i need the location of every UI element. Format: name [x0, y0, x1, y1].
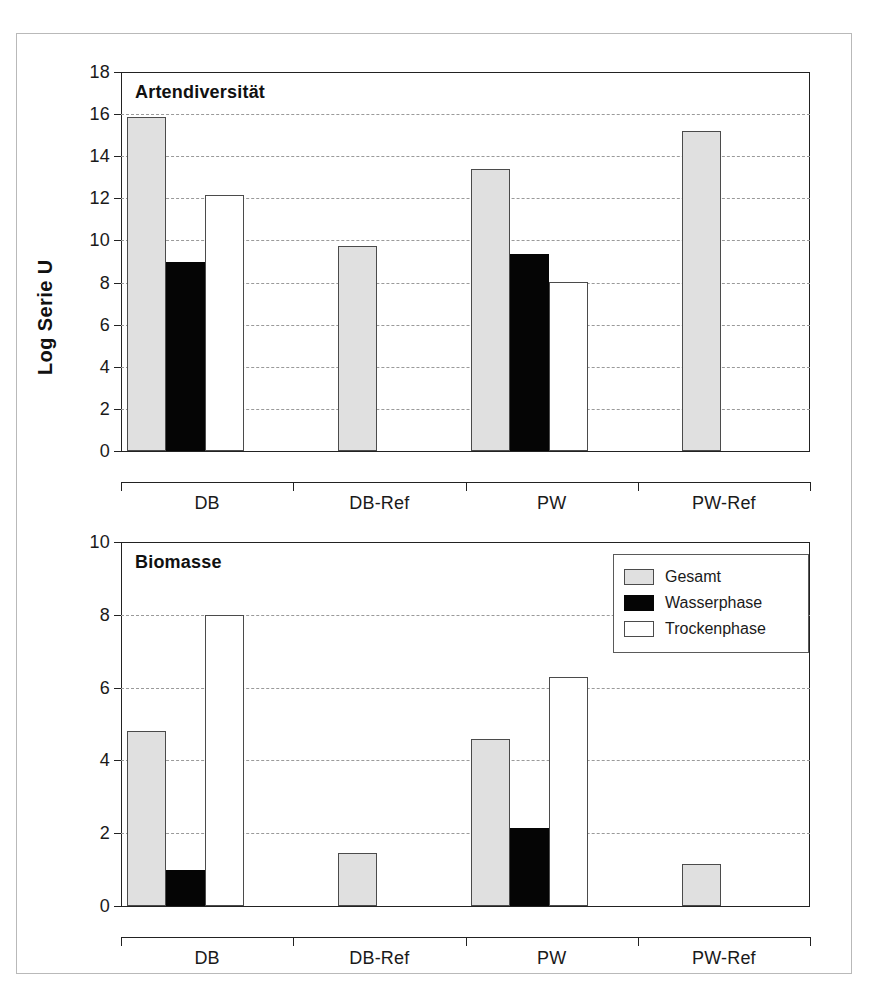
legend-item-trockenphase: Trockenphase: [624, 616, 798, 642]
y-tick-label: 14: [90, 146, 110, 167]
bar-pw-wasser: [510, 828, 549, 906]
y-tick: [114, 451, 121, 452]
x-tick: [293, 482, 294, 491]
x-axis-label-db-ref: DB-Ref: [349, 948, 409, 969]
legend-swatch-gesamt-icon: [624, 569, 654, 585]
y-tick: [114, 688, 121, 689]
y-tick-label: 0: [100, 441, 110, 462]
y-tick: [114, 833, 121, 834]
x-axis-label-db: DB: [194, 948, 219, 969]
legend-label-trockenphase: Trockenphase: [665, 620, 766, 638]
y-tick-label: 6: [100, 677, 110, 698]
y-tick: [114, 198, 121, 199]
x-tick: [121, 937, 122, 946]
bar-pw-trocken: [549, 282, 588, 451]
x-tick: [293, 937, 294, 946]
x-axis-label-pw: PW: [537, 948, 566, 969]
y-tick-label: 6: [100, 314, 110, 335]
y-tick: [114, 542, 121, 543]
y-tick-label: 4: [100, 750, 110, 771]
y-tick-label: 2: [100, 398, 110, 419]
y-tick: [114, 760, 121, 761]
y-tick-label: 18: [90, 62, 110, 83]
x-axis-line-bottom: [121, 906, 810, 907]
plot-right-border-top: [809, 72, 810, 452]
x-tick: [466, 937, 467, 946]
y-tick-label: 4: [100, 356, 110, 377]
bar-pw-gesamt: [471, 739, 510, 906]
y-tick-label: 2: [100, 823, 110, 844]
legend-item-gesamt: Gesamt: [624, 564, 798, 590]
legend-swatch-trockenphase-icon: [624, 621, 654, 637]
legend-swatch-wasserphase-icon: [624, 595, 654, 611]
y-tick-label: 10: [90, 532, 110, 553]
y-tick-label: 10: [90, 230, 110, 251]
y-tick: [114, 114, 121, 115]
bar-db-gesamt: [127, 731, 166, 906]
bar-db-ref-gesamt: [338, 853, 377, 906]
chart-legend: Gesamt Wasserphase Trockenphase: [613, 554, 809, 653]
y-tick: [114, 367, 121, 368]
y-tick: [114, 906, 121, 907]
y-tick: [114, 615, 121, 616]
plot-area-top: 024681012141618: [121, 72, 810, 452]
y-tick: [114, 325, 121, 326]
y-tick-label: 0: [100, 896, 110, 917]
legend-label-wasserphase: Wasserphase: [665, 594, 762, 612]
bar-pw-gesamt: [471, 169, 510, 451]
gridline: [121, 114, 810, 115]
bar-db-gesamt: [127, 117, 166, 451]
x-axis-label-pw-ref: PW-Ref: [692, 948, 756, 969]
legend-label-gesamt: Gesamt: [665, 568, 721, 586]
bar-pw-ref-gesamt: [682, 131, 721, 451]
figure-canvas: Log Serie U Artendiversität 024681012141…: [0, 0, 872, 1002]
y-tick-label: 8: [100, 604, 110, 625]
y-tick-label: 8: [100, 272, 110, 293]
x-tick: [466, 482, 467, 491]
bar-db-ref-gesamt: [338, 246, 377, 451]
y-tick-label: 16: [90, 104, 110, 125]
bar-pw-wasser: [510, 254, 549, 451]
bar-db-trocken: [205, 615, 244, 906]
legend-item-wasserphase: Wasserphase: [624, 590, 798, 616]
bar-db-trocken: [205, 195, 244, 451]
plot-right-border-bottom: [809, 542, 810, 907]
x-tick: [810, 482, 811, 491]
plot-top-border-bottom: [121, 542, 810, 543]
x-tick: [810, 937, 811, 946]
y-tick: [114, 409, 121, 410]
x-tick: [638, 937, 639, 946]
y-tick: [114, 283, 121, 284]
chart-panel-artendiversitaet: Log Serie U Artendiversität 024681012141…: [0, 30, 872, 500]
y-tick-label: 12: [90, 188, 110, 209]
y-tick: [114, 156, 121, 157]
y-tick: [114, 240, 121, 241]
bar-db-wasser: [166, 870, 205, 906]
bar-db-wasser: [166, 262, 205, 452]
x-tick: [638, 482, 639, 491]
bar-pw-ref-gesamt: [682, 864, 721, 906]
bar-pw-trocken: [549, 677, 588, 906]
x-tick: [121, 482, 122, 491]
y-axis-line-bottom: [121, 542, 122, 907]
x-axis-line-top: [121, 451, 810, 452]
plot-top-border-top: [121, 72, 810, 73]
y-axis-title-top: Log Serie U: [34, 259, 57, 375]
y-tick: [114, 72, 121, 73]
y-axis-line-top: [121, 72, 122, 452]
